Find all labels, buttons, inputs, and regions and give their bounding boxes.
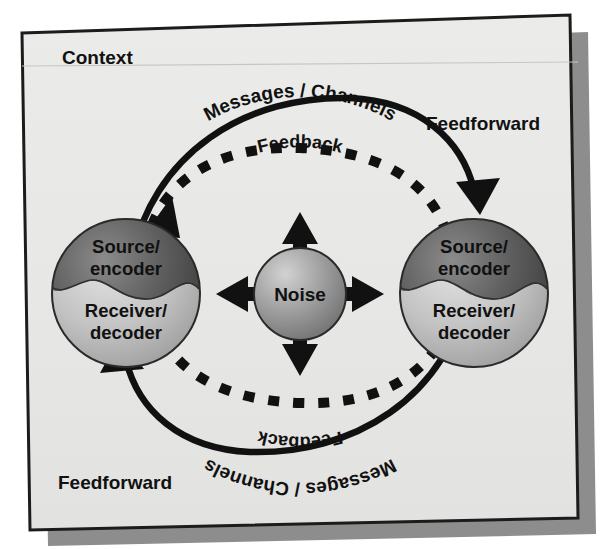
right-sphere-source-label-line1: Source/ bbox=[440, 236, 508, 257]
communication-model-svg: Context Messages / Channels Feedback bbox=[0, 0, 600, 549]
left-sphere[interactable]: Source/ encoder Receiver/ decoder bbox=[52, 219, 200, 367]
left-sphere-source-label-line2: encoder bbox=[90, 258, 162, 279]
left-sphere-receiver-label-line1: Receiver/ bbox=[85, 300, 167, 321]
left-sphere-source-label-line1: Source/ bbox=[92, 236, 160, 257]
right-sphere-source-label-line2: encoder bbox=[438, 258, 510, 279]
noise-sphere-label: Noise bbox=[274, 284, 326, 305]
right-sphere[interactable]: Source/ encoder Receiver/ decoder bbox=[400, 219, 548, 367]
feedforward-bottom-left-label: Feedforward bbox=[58, 472, 172, 493]
noise-sphere[interactable]: Noise bbox=[254, 248, 346, 340]
diagram-canvas: Context Messages / Channels Feedback bbox=[0, 0, 600, 549]
right-sphere-receiver-label-line2: decoder bbox=[438, 322, 510, 343]
left-sphere-receiver-label-line2: decoder bbox=[90, 322, 162, 343]
feedforward-top-right-label: Feedforward bbox=[426, 113, 540, 134]
context-label: Context bbox=[62, 47, 133, 68]
right-sphere-receiver-label-line1: Receiver/ bbox=[433, 300, 515, 321]
